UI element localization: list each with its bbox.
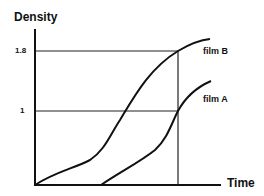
chart-plot — [0, 0, 264, 196]
curve-film-b — [35, 39, 210, 185]
curve-film-a — [101, 81, 211, 185]
